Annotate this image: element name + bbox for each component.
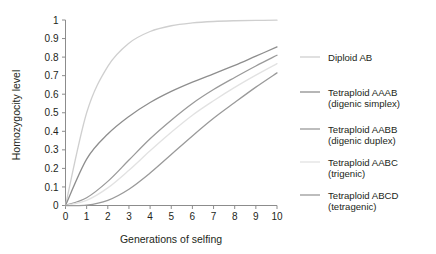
- y-tick-label: 0.3: [45, 144, 59, 155]
- y-tick-label: 0.5: [45, 107, 59, 118]
- y-tick-label: 0.6: [45, 89, 59, 100]
- y-tick-group: 00.10.20.30.40.50.60.70.80.91: [45, 15, 66, 212]
- x-tick-label: 1: [84, 211, 90, 222]
- y-tick-label: 0: [53, 200, 59, 211]
- legend-sublabel-4: (tetragenic): [328, 201, 377, 212]
- legend-label-3: Tetraploid AABC: [328, 157, 398, 168]
- x-tick-label: 2: [105, 211, 111, 222]
- y-tick-label: 0.8: [45, 52, 59, 63]
- legend-sublabel-2: (digenic duplex): [328, 135, 396, 146]
- y-tick-label: 0.4: [45, 126, 59, 137]
- legend-sublabel-3: (trigenic): [328, 168, 365, 179]
- y-axis-title: Homozygocity level: [10, 70, 22, 160]
- series-line-1: [66, 47, 278, 206]
- y-tick-label: 0.1: [45, 182, 59, 193]
- legend-label-2: Tetraploid AABB: [328, 124, 397, 135]
- legend-label-0: Diploid AB: [328, 52, 372, 63]
- x-tick-label: 8: [232, 211, 238, 222]
- x-tick-group: 012345678910: [63, 206, 283, 223]
- x-tick-label: 0: [63, 211, 69, 222]
- y-tick-label: 1: [53, 15, 59, 26]
- line-chart: Homozygocity level Generations of selfin…: [0, 0, 436, 254]
- chart-figure: Homozygocity level Generations of selfin…: [0, 0, 436, 254]
- series-line-2: [66, 55, 278, 205]
- legend-sublabel-1: (digenic simplex): [328, 98, 400, 109]
- x-tick-label: 10: [271, 211, 283, 222]
- legend-label-4: Tetraploid ABCD: [328, 190, 398, 201]
- x-tick-label: 9: [253, 211, 259, 222]
- series-group: [66, 20, 278, 205]
- x-tick-label: 7: [211, 211, 217, 222]
- legend: Diploid ABTetraploid AAAB(digenic simple…: [300, 52, 400, 213]
- y-tick-label: 0.2: [45, 163, 59, 174]
- x-tick-label: 4: [147, 211, 153, 222]
- y-tick-label: 0.7: [45, 70, 59, 81]
- y-tick-label: 0.9: [45, 33, 59, 44]
- series-line-0: [66, 20, 278, 205]
- x-tick-label: 6: [190, 211, 196, 222]
- legend-label-1: Tetraploid AAAB: [328, 87, 397, 98]
- x-tick-label: 3: [126, 211, 132, 222]
- series-line-4: [66, 73, 278, 206]
- x-tick-label: 5: [168, 211, 174, 222]
- x-axis-title: Generations of selfing: [120, 233, 222, 245]
